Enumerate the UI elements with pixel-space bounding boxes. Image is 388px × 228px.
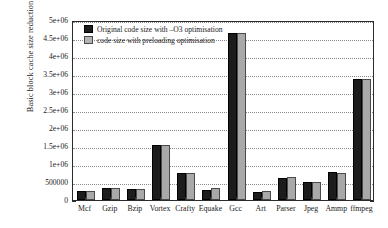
x-axis-tick-mark: [236, 197, 237, 201]
x-axis-tick-label: Vortex: [150, 204, 171, 213]
x-axis-tick-mark: [311, 197, 312, 201]
x-axis-tick-label: Parser: [276, 204, 296, 213]
bar: [353, 79, 362, 200]
x-axis-tick-mark: [261, 197, 262, 201]
x-axis-tick-label: Mcf: [78, 204, 91, 213]
bar-group: [350, 21, 374, 200]
legend-label: Original code size with –O3 optimisation: [97, 25, 223, 34]
x-axis-tick-mark: [85, 197, 86, 201]
y-axis-tick-label: 0: [8, 196, 68, 205]
bar-group: [300, 21, 325, 200]
bar: [312, 182, 321, 200]
y-axis-tick-mark: [72, 201, 76, 202]
bar-group: [325, 21, 350, 200]
bar: [152, 145, 161, 200]
x-axis-tick-label: Crafty: [175, 204, 195, 213]
legend-swatch-icon: [84, 25, 93, 33]
bar: [287, 177, 296, 200]
plot-area: [72, 21, 374, 201]
y-axis-tick-label: 3e+06: [8, 88, 68, 97]
bar-group: [73, 21, 98, 200]
bar-chart: Basic block cache size reduction 0500000…: [0, 0, 388, 228]
y-axis-tick-label: 4e+06: [8, 52, 68, 61]
bar: [186, 173, 195, 200]
bar: [362, 79, 371, 200]
bar: [237, 33, 246, 200]
x-axis-tick-label: Ammp: [325, 204, 347, 213]
y-axis-tick-label: 2e+06: [8, 124, 68, 133]
bar: [228, 33, 237, 200]
x-axis-tick-mark: [210, 197, 211, 201]
legend-item: Original code size with –O3 optimisation: [84, 24, 223, 34]
legend-label: code size with preloading optimisation: [97, 36, 215, 45]
x-axis-tick-mark: [160, 197, 161, 201]
bar: [328, 172, 337, 200]
bar: [136, 189, 145, 200]
x-axis-tick-label: Art: [256, 204, 266, 213]
bar-group: [174, 21, 199, 200]
y-axis-tick-label: 4.5e+06: [8, 34, 68, 43]
bar: [161, 145, 170, 200]
x-axis-tick-mark: [185, 197, 186, 201]
bar-group: [123, 21, 148, 200]
x-axis-tick-label: Gzip: [102, 204, 117, 213]
bar-group: [98, 21, 123, 200]
x-axis-tick-mark: [110, 197, 111, 201]
y-axis-tick-label: 1.5e+06: [8, 142, 68, 151]
x-axis-tick-mark: [135, 197, 136, 201]
x-axis-tick-label: Bzip: [128, 204, 143, 213]
bar-group: [274, 21, 299, 200]
legend-swatch-icon: [84, 36, 93, 44]
bar: [262, 191, 271, 200]
y-axis-tick-label: 1e+06: [8, 160, 68, 169]
x-axis-tick-label: Equake: [199, 204, 222, 213]
bar: [177, 173, 186, 200]
x-axis-tick-mark: [361, 197, 362, 201]
bar: [337, 173, 346, 200]
x-axis-tick-label: Gcc: [229, 204, 242, 213]
chart-legend: Original code size with –O3 optimisation…: [84, 24, 223, 45]
y-axis-tick-label: 2.5e+06: [8, 106, 68, 115]
bar-group: [249, 21, 274, 200]
x-axis-tick-mark: [336, 197, 337, 201]
bar: [211, 188, 220, 200]
bar: [86, 191, 95, 200]
y-axis-tick-mark-right: [370, 201, 374, 202]
x-axis-tick-label: ffmpeg: [350, 204, 372, 213]
y-axis-tick-label: 500000: [8, 178, 68, 187]
y-axis-tick-label: 3.5e+06: [8, 70, 68, 79]
bar-group: [149, 21, 174, 200]
x-axis-tick-mark: [286, 197, 287, 201]
legend-item: code size with preloading optimisation: [84, 35, 223, 45]
bar: [111, 188, 120, 200]
y-axis-tick-label: 5e+06: [8, 16, 68, 25]
x-axis-tick-label: Jpeg: [304, 204, 318, 213]
bar-group: [224, 21, 249, 200]
bar-group: [199, 21, 224, 200]
